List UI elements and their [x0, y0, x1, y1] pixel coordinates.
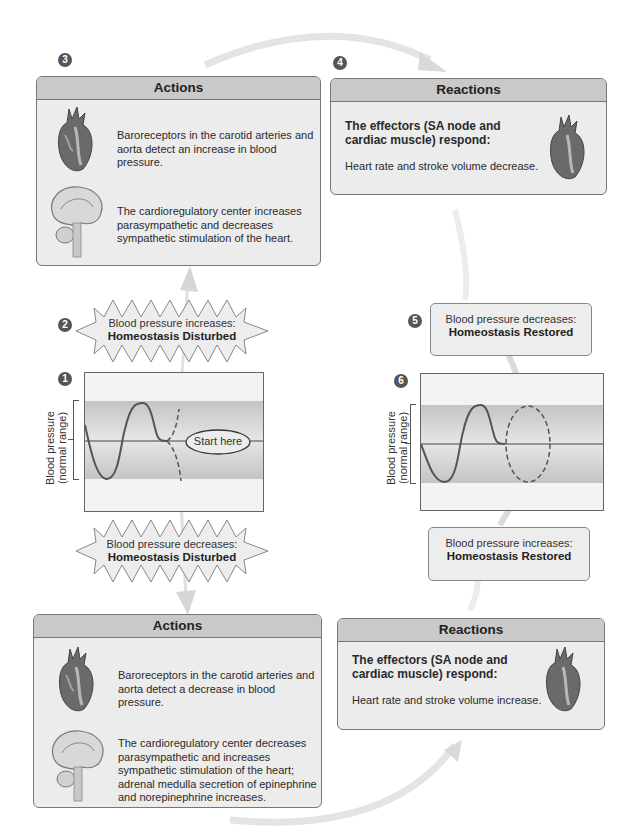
restored-top-line1: Blood pressure decreases:: [431, 313, 591, 326]
actions-text-1: Baroreceptors in the carotid arteries an…: [117, 129, 317, 170]
restored-box-top: Blood pressure decreases: Homeostasis Re…: [430, 303, 592, 356]
heart-icon: [542, 645, 586, 713]
restored-top-line2: Homeostasis Restored: [449, 326, 574, 338]
bracket-tick: [68, 439, 73, 440]
graph-right-ylabel: Blood pressure (normal range): [385, 398, 409, 498]
heart-icon: [55, 105, 97, 173]
burst-top-line1: Blood pressure increases:: [76, 317, 268, 330]
graph-left-bracket: [73, 400, 79, 480]
reactions-result-text: Heart rate and stroke volume increase.: [352, 694, 552, 708]
actions-text-2: The cardioregulatory center increases pa…: [117, 205, 317, 246]
reactions-panel-bottom: Reactions The effectors (SA node and car…: [337, 618, 605, 730]
waveform: [421, 374, 604, 511]
actions-header: Actions: [34, 615, 321, 638]
restored-box-bottom: Blood pressure increases: Homeostasis Re…: [428, 527, 590, 581]
graph-left-ylabel: Blood pressure (normal range): [44, 398, 68, 498]
burst-bottom-line2: Homeostasis Disturbed: [108, 551, 236, 563]
burst-top-line2: Homeostasis Disturbed: [108, 330, 236, 342]
step-badge-1: 1: [58, 372, 72, 386]
reactions-header: Reactions: [338, 619, 604, 642]
reactions-panel-top: Reactions The effectors (SA node and car…: [330, 78, 607, 195]
step-badge-5: 5: [408, 314, 422, 328]
heart-icon: [56, 645, 98, 713]
graph-right: [420, 373, 604, 511]
actions-text-2: The cardioregulatory center decreases pa…: [118, 737, 318, 805]
bracket-tick: [405, 443, 410, 444]
start-here-label: Start here: [185, 435, 251, 447]
step-badge-4: 4: [333, 56, 347, 70]
burst-bottom-text: Blood pressure decreases: Homeostasis Di…: [76, 538, 268, 564]
reactions-effectors-text: The effectors (SA node and cardiac muscl…: [345, 119, 525, 147]
reactions-effectors-text: The effectors (SA node and cardiac muscl…: [352, 653, 532, 681]
burst-bottom-line1: Blood pressure decreases:: [76, 538, 268, 551]
step-badge-6: 6: [394, 374, 408, 388]
step-badge-3: 3: [58, 53, 72, 67]
heart-icon: [546, 113, 590, 181]
burst-top-text: Blood pressure increases: Homeostasis Di…: [76, 317, 268, 343]
graph-left: Start here: [84, 372, 264, 512]
restored-bottom-line2: Homeostasis Restored: [447, 550, 572, 562]
step-badge-2: 2: [58, 318, 72, 332]
brain-icon: [48, 723, 108, 803]
restored-bottom-line1: Blood pressure increases:: [429, 537, 589, 550]
actions-panel-top: Actions Baroreceptors in the carotid art…: [36, 76, 321, 266]
graph-right-bracket: [410, 404, 416, 484]
reactions-result-text: Heart rate and stroke volume decrease.: [345, 160, 545, 174]
reactions-header: Reactions: [331, 79, 606, 102]
actions-header: Actions: [37, 77, 320, 100]
brain-icon: [47, 179, 107, 259]
actions-panel-bottom: Actions Baroreceptors in the carotid art…: [33, 614, 322, 808]
actions-text-1: Baroreceptors in the carotid arteries an…: [118, 669, 318, 710]
